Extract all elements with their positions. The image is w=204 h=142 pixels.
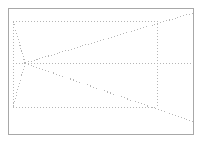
front-face-rectangle: [13, 21, 157, 107]
diagram-canvas: [0, 0, 204, 142]
perspective-diagram: [0, 0, 204, 142]
ray-upper-left: [13, 21, 25, 63]
perspective-ray-group: [13, 13, 193, 122]
ray-lower-right: [25, 63, 193, 122]
ray-lower-left: [13, 63, 25, 107]
outer-border: [9, 9, 194, 135]
